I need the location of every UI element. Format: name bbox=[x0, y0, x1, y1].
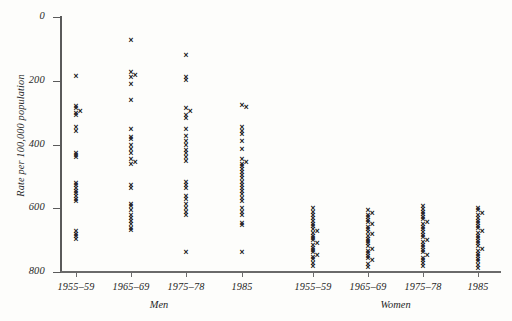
data-point bbox=[73, 112, 80, 119]
data-point bbox=[310, 263, 317, 270]
y-tick-200 bbox=[53, 208, 61, 209]
x-tick-0 bbox=[76, 272, 77, 277]
data-point bbox=[128, 37, 135, 44]
x-tick-3 bbox=[242, 272, 243, 277]
y-axis-title: Rate per 100,000 population bbox=[15, 46, 26, 226]
data-point bbox=[128, 161, 135, 168]
x-tick-6 bbox=[423, 272, 424, 277]
data-point bbox=[73, 128, 80, 135]
data-point bbox=[183, 158, 190, 165]
plot-area bbox=[61, 17, 500, 272]
y-tick-800 bbox=[53, 17, 61, 18]
data-point bbox=[475, 265, 482, 272]
x-tick-1 bbox=[131, 272, 132, 277]
group-label-women: Women bbox=[356, 299, 436, 310]
data-point bbox=[73, 236, 80, 243]
y-tick-400 bbox=[53, 145, 61, 146]
x-tick-2 bbox=[186, 272, 187, 277]
data-point bbox=[239, 146, 246, 153]
y-tick-0 bbox=[53, 272, 61, 273]
data-point bbox=[128, 97, 135, 104]
data-point bbox=[183, 77, 190, 84]
data-point bbox=[183, 115, 190, 122]
data-point bbox=[128, 185, 135, 192]
x-tick-7 bbox=[478, 272, 479, 277]
data-point bbox=[243, 104, 250, 111]
y-tick-label-600: 200 bbox=[0, 74, 45, 85]
group-label-men: Men bbox=[119, 299, 199, 310]
data-point bbox=[239, 249, 246, 256]
x-tick-label-7: 1985 bbox=[443, 281, 512, 292]
y-tick-label-400: 400 bbox=[0, 138, 45, 149]
x-tick-5 bbox=[368, 272, 369, 277]
data-point bbox=[365, 264, 372, 271]
data-point bbox=[420, 263, 427, 270]
data-point bbox=[128, 227, 135, 234]
figure-scatter-rate-per-100000: Rate per 100,000 population 800600400200… bbox=[0, 0, 512, 321]
data-point bbox=[73, 73, 80, 80]
data-point bbox=[73, 198, 80, 205]
data-point bbox=[73, 154, 80, 161]
x-tick-label-3: 1985 bbox=[207, 281, 277, 292]
y-tick-label-800: 0 bbox=[0, 10, 45, 21]
data-point bbox=[128, 81, 135, 88]
data-point bbox=[239, 222, 246, 229]
y-tick-label-200: 600 bbox=[0, 201, 45, 212]
data-point bbox=[183, 52, 190, 59]
caption-fragment bbox=[0, 313, 512, 321]
data-point bbox=[183, 249, 190, 256]
y-tick-600 bbox=[53, 81, 61, 82]
x-tick-4 bbox=[313, 272, 314, 277]
data-point bbox=[183, 212, 190, 219]
y-tick-label-0: 800 bbox=[0, 265, 45, 276]
